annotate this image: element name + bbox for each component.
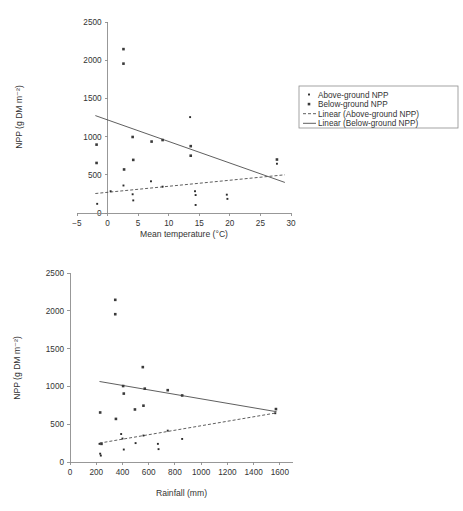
legend-item[interactable]: Linear (Above-ground NPP)	[303, 110, 419, 119]
trendline-above-ground	[100, 413, 277, 443]
y-axis-npp-vs-temperature: 05001000150020002500NPP (g DM m⁻²)	[14, 18, 108, 218]
data-point	[143, 435, 145, 437]
data-point	[114, 299, 117, 302]
x-axis-npp-vs-temperature: −5051015202530Mean temperature (°C)	[72, 213, 296, 239]
data-point	[123, 185, 125, 187]
data-point	[99, 411, 102, 414]
data-point	[194, 190, 196, 192]
chart-panel-npp-vs-rainfall: 05001000150020002500NPP (g DM m⁻²)020040…	[12, 269, 293, 498]
trendlines-npp-vs-rainfall	[100, 381, 277, 443]
x-tick-label: 1200	[218, 468, 237, 477]
data-point	[274, 412, 276, 414]
data-point	[96, 203, 98, 205]
x-tick-label: 0	[68, 468, 73, 477]
data-point	[95, 162, 98, 165]
data-point	[132, 193, 134, 195]
series-above-ground-npp	[99, 412, 277, 456]
data-point	[150, 180, 152, 182]
y-tick-label: 1000	[46, 382, 65, 391]
y-tick-label: 1500	[46, 345, 65, 354]
y-tick-label: 2500	[46, 269, 65, 278]
data-point	[226, 194, 228, 196]
series-below-ground-npp	[99, 299, 277, 446]
data-point	[143, 387, 146, 390]
data-point	[100, 455, 102, 457]
series-above-ground-npp	[96, 116, 278, 206]
x-axis-title: Rainfall (mm)	[156, 488, 207, 498]
data-point	[122, 62, 125, 65]
x-tick-label: 800	[168, 468, 182, 477]
y-tick-label: 500	[50, 420, 64, 429]
data-point	[132, 199, 134, 201]
chart-panel-npp-vs-temperature: 05001000150020002500NPP (g DM m⁻²)−50510…	[14, 18, 296, 239]
data-point	[100, 443, 103, 446]
x-tick-label: 1600	[271, 468, 290, 477]
legend-small-square-marker	[308, 94, 310, 96]
data-point	[195, 194, 197, 196]
data-point	[122, 385, 125, 388]
legend-item-label: Below-ground NPP	[318, 100, 388, 109]
x-tick-label: 1400	[245, 468, 264, 477]
data-point	[189, 145, 192, 148]
data-point	[276, 158, 279, 161]
legend-square-marker	[308, 103, 311, 106]
y-tick-label: 0	[97, 209, 102, 218]
legend-item-label: Linear (Above-ground NPP)	[318, 110, 419, 119]
data-point	[226, 198, 228, 200]
y-tick-label: 2000	[83, 56, 102, 65]
legend-item[interactable]: Linear (Below-ground NPP)	[303, 119, 418, 128]
y-tick-label: 2500	[83, 18, 102, 27]
x-tick-label: 600	[142, 468, 156, 477]
data-point	[142, 366, 145, 369]
legend-item-label: Above-ground NPP	[318, 91, 389, 100]
data-point	[135, 442, 137, 444]
trendline-above-ground	[95, 175, 285, 194]
data-point	[95, 143, 98, 146]
series-below-ground-npp	[95, 48, 278, 171]
data-point	[134, 408, 137, 411]
trendline-below-ground	[100, 381, 277, 411]
data-point	[275, 408, 278, 411]
x-tick-label: 1000	[192, 468, 211, 477]
x-tick-label: 20	[225, 219, 235, 228]
legend-item[interactable]: Below-ground NPP	[308, 100, 388, 109]
data-point	[162, 186, 164, 188]
data-point	[99, 443, 101, 445]
legend-item-label: Linear (Below-ground NPP)	[318, 119, 418, 128]
x-tick-label: −5	[72, 219, 82, 228]
x-tick-label: 400	[116, 468, 130, 477]
data-point	[123, 168, 126, 171]
chart-canvas: 05001000150020002500NPP (g DM m⁻²)−50510…	[0, 0, 463, 511]
legend: Above-ground NPPBelow-ground NPPLinear (…	[299, 86, 458, 128]
x-axis-title: Mean temperature (°C)	[140, 229, 228, 239]
legend-item[interactable]: Above-ground NPP	[308, 91, 389, 100]
data-point	[166, 389, 169, 392]
data-point	[122, 48, 125, 51]
data-point	[122, 392, 125, 395]
x-tick-label: 0	[105, 219, 110, 228]
x-tick-label: 10	[164, 219, 174, 228]
x-tick-label: 5	[136, 219, 141, 228]
data-point	[110, 190, 112, 192]
data-point	[123, 449, 125, 451]
y-tick-label: 1500	[83, 94, 102, 103]
y-axis-npp-vs-rainfall: 05001000150020002500NPP (g DM m⁻²)	[12, 269, 70, 467]
data-point	[99, 453, 101, 455]
y-tick-label: 0	[59, 458, 64, 467]
x-tick-label: 25	[256, 219, 266, 228]
x-tick-label: 15	[195, 219, 205, 228]
data-point	[142, 404, 145, 407]
y-tick-label: 1000	[83, 133, 102, 142]
data-point	[276, 163, 278, 165]
data-point	[167, 430, 169, 432]
data-point	[161, 139, 164, 142]
y-tick-label: 2000	[46, 307, 65, 316]
figure-container: 05001000150020002500NPP (g DM m⁻²)−50510…	[0, 0, 463, 511]
data-point	[114, 313, 117, 316]
data-point	[158, 448, 160, 450]
y-axis-title: NPP (g DM m⁻²)	[12, 336, 22, 400]
data-point	[189, 116, 191, 118]
trendline-below-ground	[95, 116, 285, 183]
x-axis-npp-vs-rainfall: 02004006008001000120014001600Rainfall (m…	[68, 462, 293, 498]
data-point	[181, 394, 184, 397]
